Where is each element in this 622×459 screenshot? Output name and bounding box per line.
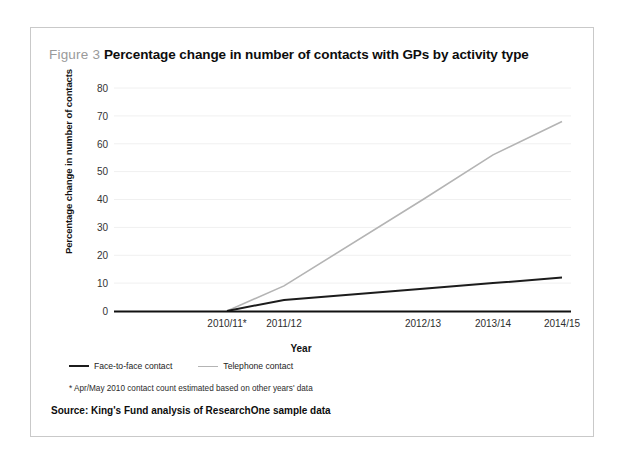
x-tick-2012-13: 2012/13 [405,318,442,329]
legend-swatch-face-to-face-icon [69,365,89,367]
x-tick-2010-11: 2010/11* [207,318,246,329]
chart-source: Source: King's Fund analysis of Research… [51,405,331,416]
y-tick-10: 10 [97,278,109,289]
y-tick-60: 60 [97,139,109,150]
x-tick-2011-12: 2011/12 [266,318,302,329]
legend-label-face-to-face: Face-to-face contact [94,361,172,371]
legend-item-face-to-face: Face-to-face contact [69,361,172,371]
y-axis-tick-labels: 80 70 60 50 40 30 20 10 0 [97,83,109,317]
y-tick-30: 30 [97,222,109,233]
y-tick-80: 80 [97,83,109,94]
chart-legend: Face-to-face contact Telephone contact [69,361,293,371]
x-axis-title: Year [31,343,571,354]
line-chart-svg: 80 70 60 50 40 30 20 10 0 2010/11* 2011/… [31,28,593,358]
x-axis-tick-labels: 2010/11* 2011/12 2012/13 2013/14 2014/15 [207,318,580,329]
y-tick-70: 70 [97,111,109,122]
y-tick-0: 0 [102,306,108,317]
legend-item-telephone: Telephone contact [198,361,293,371]
gridlines [114,88,571,283]
legend-label-telephone: Telephone contact [223,361,293,371]
chart-plot-area: 80 70 60 50 40 30 20 10 0 2010/11* 2011/… [31,28,593,436]
x-tick-2013-14: 2013/14 [475,318,512,329]
y-tick-20: 20 [97,250,109,261]
y-tick-50: 50 [97,166,109,177]
x-tick-2014-15: 2014/15 [544,318,581,329]
legend-swatch-telephone-icon [198,366,218,367]
figure-container: Figure 3 Percentage change in number of … [30,27,594,437]
chart-footnote: * Apr/May 2010 contact count estimated b… [69,384,313,393]
y-axis-title: Percentage change in number of contacts [63,62,74,262]
y-tick-40: 40 [97,194,109,205]
